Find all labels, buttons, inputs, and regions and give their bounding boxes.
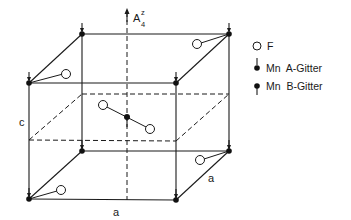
svg-text:Mn A-Gitter: Mn A-Gitter: [266, 62, 323, 74]
label-a-front: a: [113, 206, 120, 218]
legend-item-mn-a: Mn A-Gitter: [254, 58, 322, 74]
mn-a-atom: [26, 72, 32, 86]
mn-a-atom: [173, 189, 179, 203]
f-atom: [196, 156, 205, 165]
f-atom: [57, 186, 66, 195]
svg-text:Mn B-Gitter: Mn B-Gitter: [266, 80, 323, 92]
axis-label: A z 4: [133, 8, 145, 29]
f-atom: [146, 125, 155, 134]
label-a-side: a: [208, 172, 215, 184]
legend-item-f: F: [253, 40, 273, 52]
unit-cell-diagram: A z 4: [0, 0, 351, 220]
axis-label-sub: 4: [141, 20, 145, 29]
axis-label-base: A: [133, 12, 141, 24]
mn-a-atom: [226, 23, 232, 37]
axis-label-sup: z: [141, 8, 145, 17]
mn-b-legend-icon: [254, 83, 260, 89]
mn-a-legend-icon: [254, 65, 260, 71]
f-atom: [99, 101, 108, 110]
f-atom: [193, 40, 202, 49]
mn-a-atom: [226, 140, 232, 154]
back-face: [82, 34, 229, 151]
corner-mn-atoms: [26, 23, 232, 203]
mn-a-atom: [173, 72, 179, 86]
mn-a-atom: [26, 188, 32, 202]
f-atom: [62, 70, 71, 79]
label-c: c: [19, 116, 25, 128]
legend-item-mn-b: Mn B-Gitter: [254, 80, 323, 95]
mn-a-atom: [79, 140, 85, 154]
mn-a-atom: [79, 23, 85, 37]
axis-arrowhead-icon: [125, 8, 130, 14]
svg-text:F: F: [267, 40, 273, 52]
f-legend-icon: [253, 42, 261, 50]
legend: F Mn A-Gitter Mn B-Gitter: [253, 40, 323, 95]
